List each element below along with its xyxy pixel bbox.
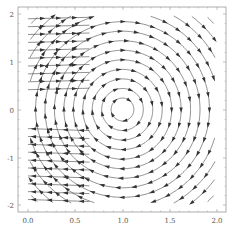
arrow-icon — [85, 124, 89, 130]
arrow-icon — [136, 144, 142, 148]
arrow-icon — [111, 112, 115, 118]
arrow-icon — [131, 185, 137, 188]
streamline — [174, 16, 215, 58]
arrow-icon — [40, 33, 45, 36]
arrow-icon — [126, 97, 131, 101]
arrow-icon — [118, 177, 123, 180]
arrow-icon — [63, 191, 69, 194]
arrow-icon — [44, 98, 47, 104]
arrow-icon — [170, 107, 173, 112]
arrow-icon — [101, 32, 107, 35]
arrow-icon — [149, 147, 154, 152]
arrow-icon — [131, 69, 137, 72]
arrow-icon — [195, 63, 199, 69]
arrow-icon — [56, 24, 61, 27]
arrow-icon — [72, 87, 77, 90]
streamline — [151, 16, 215, 81]
y-tick-label: 0 — [10, 107, 14, 115]
x-tick-label: 1.5 — [164, 217, 175, 225]
arrow-icon — [72, 106, 75, 111]
arrow-icon — [34, 106, 37, 111]
arrow-icon — [72, 71, 77, 74]
arrow-icon — [196, 151, 200, 157]
arrow-icon — [106, 135, 112, 139]
arrow-icon — [60, 156, 65, 161]
arrow-icon — [79, 144, 85, 147]
arrow-icon — [62, 106, 65, 111]
streamline — [192, 17, 215, 40]
arrow-icon — [168, 122, 171, 128]
arrow-icon — [54, 119, 57, 125]
arrow-icon — [175, 27, 180, 31]
arrow-icon — [134, 194, 140, 197]
y-tick-label: 2 — [10, 11, 14, 19]
arrow-icon — [76, 32, 82, 36]
arrow-icon — [47, 167, 53, 170]
arrow-icon — [179, 107, 182, 112]
arrow-icon — [93, 45, 99, 49]
streamline — [73, 60, 171, 159]
arrow-icon — [102, 97, 106, 103]
arrow-icon — [91, 148, 96, 153]
streamline — [30, 17, 53, 40]
streamline — [30, 16, 71, 58]
arrow-icon — [113, 89, 119, 93]
arrow-icon — [83, 94, 86, 100]
arrow-icon — [89, 81, 94, 86]
y-tick-label: -2 — [7, 202, 14, 210]
stream-plot: 0.00.51.01.52.0 210-1-2 — [0, 0, 245, 237]
arrow-icon — [151, 199, 157, 202]
streamline — [192, 180, 215, 203]
arrow-icon — [163, 31, 169, 35]
arrow-icon — [101, 72, 107, 76]
arrow-icon — [53, 104, 56, 109]
arrow-icon — [148, 169, 154, 173]
arrow-icon — [178, 185, 183, 190]
arrow-icon — [40, 64, 45, 67]
arrow-icon — [72, 55, 77, 58]
arrow-icon — [40, 48, 45, 51]
arrow-icon — [178, 122, 181, 128]
arrow-icon — [31, 135, 37, 138]
arrow-icon — [160, 78, 165, 83]
arrow-icon — [30, 138, 33, 144]
arrow-icon — [120, 58, 125, 61]
arrow-icon — [64, 91, 67, 97]
arrow-icon — [128, 88, 134, 92]
arrow-icon — [177, 92, 180, 98]
arrow-icon — [150, 25, 156, 28]
arrow-icon — [63, 168, 69, 171]
arrow-icon — [56, 48, 61, 51]
arrow-icon — [208, 47, 212, 52]
arrow-icon — [52, 142, 56, 148]
arrow-icon — [163, 183, 169, 187]
arrow-icon — [104, 195, 110, 198]
arrow-icon — [172, 136, 176, 142]
arrow-icon — [149, 190, 155, 194]
arrow-icon — [162, 173, 167, 177]
arrow-icon — [120, 49, 125, 52]
arrow-icon — [84, 178, 90, 182]
arrow-icon — [185, 23, 190, 28]
arrow-icon — [90, 191, 96, 194]
arrow-icon — [124, 39, 130, 42]
arrow-icon — [202, 77, 205, 83]
arrow-icon — [56, 64, 61, 67]
arrow-icon — [115, 78, 121, 81]
arrow-icon — [31, 174, 37, 177]
arrow-icon — [56, 40, 61, 43]
streamlines — [28, 14, 217, 204]
streamline — [31, 17, 37, 23]
x-tick-label: 2.0 — [211, 217, 222, 225]
arrow-icon — [153, 47, 159, 51]
arrow-icon — [130, 78, 136, 81]
arrow-icon — [56, 79, 61, 82]
arrow-icon — [139, 98, 143, 104]
arrow-icon — [186, 65, 190, 71]
arrow-icon — [104, 156, 110, 159]
arrow-icon — [96, 124, 101, 129]
arrow-icon — [105, 22, 111, 25]
arrow-icon — [63, 136, 69, 139]
arrow-icon — [160, 102, 163, 108]
arrow-icon — [41, 51, 45, 56]
